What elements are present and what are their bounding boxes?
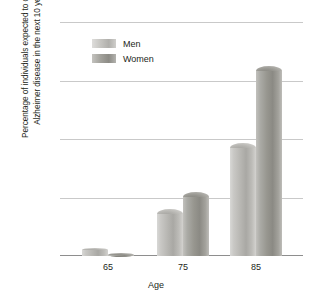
bar-body xyxy=(230,148,256,256)
bar-body xyxy=(108,255,134,257)
x-axis-title: Age xyxy=(0,280,312,290)
bar-body xyxy=(183,197,209,256)
gridline-20 xyxy=(60,22,303,23)
chart-legend: Men Women xyxy=(92,36,154,66)
bar-women-85 xyxy=(256,66,282,256)
y-axis-title-line1: Percentage of individuals expected to de… xyxy=(20,0,32,171)
bar-men-85 xyxy=(230,143,256,256)
bar-body xyxy=(82,250,108,256)
legend-item-men: Men xyxy=(92,36,154,51)
legend-label-women: Women xyxy=(123,54,154,64)
bar-women-65 xyxy=(108,253,134,257)
x-tick-label-75: 75 xyxy=(153,262,213,272)
legend-label-men: Men xyxy=(123,39,141,49)
bar-men-75 xyxy=(157,209,183,256)
legend-swatch-women-icon xyxy=(92,54,116,63)
bar-body xyxy=(157,214,183,256)
bar-chart-figure: Percentage of individuals expected to de… xyxy=(0,0,312,297)
legend-item-women: Women xyxy=(92,51,154,66)
bar-body xyxy=(256,71,282,256)
x-tick-label-85: 85 xyxy=(226,262,286,272)
y-axis-title-line2: Alzheimer disease in the next 10 years xyxy=(31,0,43,171)
bar-men-65 xyxy=(82,248,108,256)
legend-swatch-men-icon xyxy=(92,39,116,48)
x-tick-label-65: 65 xyxy=(78,262,138,272)
y-axis-title: Percentage of individuals expected to de… xyxy=(20,0,43,171)
bar-women-75 xyxy=(183,192,209,256)
